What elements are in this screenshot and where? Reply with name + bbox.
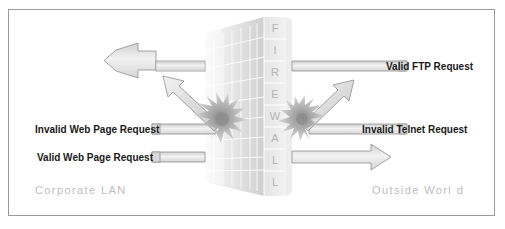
label-invalid-telnet-request: Invalid Telnet Request [362, 125, 467, 135]
firewall-letter-5: A [265, 133, 285, 144]
caption-corporate-lan: Corporate LAN [35, 185, 127, 196]
label-invalid-web-page-request: Invalid Web Page Request [35, 125, 159, 135]
connector-valid-web [152, 152, 160, 162]
label-valid-web-page-request: Valid Web Page Request [37, 153, 153, 163]
firewall-letter-2: R [265, 67, 285, 78]
caption-outside-world: Outside Worl d [372, 185, 464, 196]
arrow-invalid-web-page-request [152, 124, 216, 134]
firewall-letter-1: I [265, 45, 285, 56]
firewall-letter-4: W [265, 111, 285, 122]
firewall-letter-6: L [265, 155, 285, 166]
firewall-letter-3: E [265, 89, 285, 100]
firewall-letter-0: F [265, 23, 285, 34]
label-valid-ftp-request: Valid FTP Request [386, 62, 473, 72]
firewall-letter-7: L [265, 177, 285, 188]
firewall-diagram: F I R E W A L L Valid FTP Request Invali… [0, 0, 505, 229]
